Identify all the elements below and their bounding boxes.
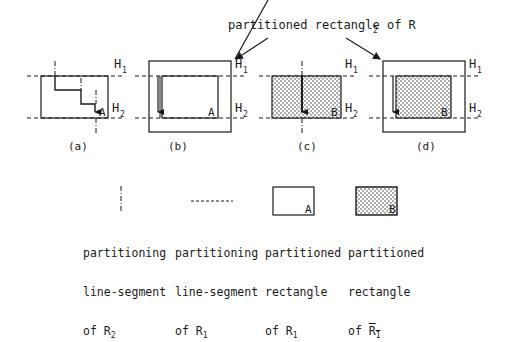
- panel-a: A H 1 H 2 (a): [27, 57, 127, 153]
- panel-b: A H 1 H 2 (b): [135, 57, 248, 153]
- h2-label: H: [469, 101, 476, 115]
- panel-c: B H 1 H 2 (c): [259, 57, 358, 153]
- legend-line: partitioning: [175, 247, 258, 260]
- legend-overlined-symbol: R1: [369, 324, 381, 338]
- panel-d: B H 1 H 2 (d): [369, 57, 482, 153]
- panel-caption: (d): [416, 140, 436, 153]
- h1-label: H: [114, 57, 121, 71]
- legend-subscript: 1: [293, 331, 298, 340]
- legend-line: of R1: [265, 325, 341, 342]
- corner-label: B: [441, 106, 448, 119]
- legend-line: partitioned: [348, 247, 424, 260]
- legend-item-r2-partition-segment: partitioning line-segment of R2: [83, 221, 166, 342]
- h2-subscript: 2: [477, 110, 482, 119]
- legend-prefix: of R: [265, 324, 293, 338]
- h1-subscript: 1: [243, 66, 248, 75]
- h2-label: H: [235, 101, 242, 115]
- title-annotation-subscript: 2: [373, 26, 378, 35]
- panel-caption: (c): [297, 140, 317, 153]
- corner-label: A: [99, 106, 106, 119]
- h1-subscript: 1: [353, 66, 358, 75]
- legend-corner-label: A: [305, 203, 312, 216]
- legend-line: partitioned: [265, 247, 341, 260]
- legend-prefix: of R: [83, 324, 111, 338]
- legend: A B: [121, 186, 397, 216]
- legend-item-r1-partition-segment: partitioning line-segment of R1: [175, 221, 258, 342]
- legend-line: line-segment: [175, 286, 258, 299]
- staircase-partition-path: [55, 76, 95, 112]
- legend-item-r1-complement-rectangle: partitioned rectangle of R1: [348, 221, 424, 342]
- legend-subscript: 1: [203, 331, 208, 340]
- legend-prefix: of R: [175, 324, 203, 338]
- partitioned-rectangle-r2: [149, 61, 231, 132]
- legend-subscript: 2: [111, 331, 116, 340]
- corner-label: A: [208, 106, 215, 119]
- h1-subscript: 1: [122, 66, 127, 75]
- h1-label: H: [469, 57, 476, 71]
- legend-line: line-segment: [83, 286, 166, 299]
- panel-caption: (b): [168, 140, 188, 153]
- h2-subscript: 2: [353, 110, 358, 119]
- h2-label: H: [345, 101, 352, 115]
- h1-subscript: 1: [477, 66, 482, 75]
- partitioned-rectangle-r1: [41, 76, 108, 118]
- panel-caption: (a): [68, 140, 88, 153]
- legend-corner-label: B: [389, 203, 396, 216]
- legend-line: of R1: [175, 325, 258, 342]
- h2-subscript: 2: [120, 110, 125, 119]
- h1-label: H: [345, 57, 352, 71]
- legend-subscript: 1: [376, 331, 381, 340]
- legend-line: rectangle: [265, 286, 341, 299]
- corner-label: B: [331, 106, 338, 119]
- legend-line: of R2: [83, 325, 166, 342]
- h1-label: H: [235, 57, 242, 71]
- legend-line: rectangle: [348, 286, 424, 299]
- legend-item-r1-rectangle: partitioned rectangle of R1: [265, 221, 341, 342]
- legend-line: of R1: [348, 325, 424, 342]
- pointer-arrow-to-d: [346, 38, 380, 59]
- legend-line: partitioning: [83, 247, 166, 260]
- title-annotation: partitioned rectangle of R 2: [228, 0, 417, 59]
- h2-label: H: [112, 101, 119, 115]
- h2-subscript: 2: [243, 110, 248, 119]
